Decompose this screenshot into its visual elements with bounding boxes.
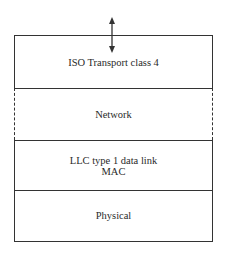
layer-transport: ISO Transport class 4	[14, 35, 213, 88]
layer-datalink-label-line2: MAC	[102, 166, 126, 177]
layer-network-label: Network	[95, 109, 132, 121]
layer-datalink: LLC type 1 data link MAC	[14, 140, 213, 190]
layer-physical: Physical	[14, 190, 213, 242]
layer-physical-label: Physical	[96, 210, 132, 222]
layer-network: Network	[14, 88, 213, 140]
layer-datalink-label-line1: LLC type 1 data link	[70, 155, 157, 166]
layer-transport-label: ISO Transport class 4	[68, 57, 159, 69]
